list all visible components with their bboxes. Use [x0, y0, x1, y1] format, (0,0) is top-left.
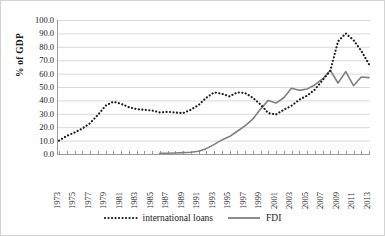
- y-axis-tick-label: 80.0: [20, 43, 54, 52]
- x-axis-tick-label: 1981: [115, 165, 124, 209]
- x-axis-tick-label: 1987: [161, 165, 170, 209]
- plot-svg: [58, 20, 370, 154]
- y-axis-tick-label: 40.0: [20, 96, 54, 105]
- y-axis-tick-labels: 0.010.020.030.040.050.060.070.080.090.01…: [18, 0, 54, 236]
- x-axis-tick-label: 2009: [332, 165, 341, 209]
- y-axis-tick-label: 20.0: [20, 123, 54, 132]
- x-axis-tick-label: 2011: [347, 165, 356, 209]
- y-axis-tick-label: 100.0: [20, 16, 54, 25]
- plot-area: [57, 20, 370, 155]
- gridlines: [58, 21, 370, 155]
- x-axis-tick-label: 1991: [192, 165, 201, 209]
- legend-label-fdi: FDI: [266, 213, 281, 223]
- y-axis-tick-label: 60.0: [20, 70, 54, 79]
- x-axis-tick-label: 2001: [270, 165, 279, 209]
- y-axis-tick-label: 10.0: [20, 137, 54, 146]
- legend-item-fdi: FDI: [227, 213, 281, 223]
- x-axis-tick-label: 2003: [285, 165, 294, 209]
- x-axis-tick-label: 2005: [301, 165, 310, 209]
- x-axis-tick-label: 1989: [177, 165, 186, 209]
- legend-label-international-loans: international loans: [143, 213, 213, 223]
- x-axis-tick-label: 2013: [363, 165, 372, 209]
- x-axis-tick-label: 2007: [316, 165, 325, 209]
- x-axis-tick-label: 1975: [68, 165, 77, 209]
- y-axis-tick-label: 90.0: [20, 29, 54, 38]
- dotted-line-swatch: [104, 214, 138, 222]
- y-axis-tick-label: 30.0: [20, 110, 54, 119]
- x-axis-tick-label: 1977: [84, 165, 93, 209]
- solid-line-swatch: [227, 214, 261, 222]
- x-axis-tick-labels: 1973197519771979198119831985198719891991…: [57, 157, 370, 209]
- x-axis-tick-label: 1993: [208, 165, 217, 209]
- y-axis-tick-label: 0.0: [20, 150, 54, 159]
- x-axis-tick-label: 1973: [53, 165, 62, 209]
- legend-item-international-loans: international loans: [104, 213, 213, 223]
- x-axis-tick-label: 1983: [130, 165, 139, 209]
- chart-legend: international loans FDI: [0, 208, 385, 228]
- x-axis-tick-label: 1999: [254, 165, 263, 209]
- y-axis-tick-label: 50.0: [20, 83, 54, 92]
- x-axis-tick-label: 1979: [99, 165, 108, 209]
- x-axis-tick-label: 1985: [146, 165, 155, 209]
- y-axis-tick-label: 70.0: [20, 56, 54, 65]
- x-axis-tick-label: 1997: [239, 165, 248, 209]
- chart-figure: % of GDP 0.010.020.030.040.050.060.070.0…: [0, 0, 385, 236]
- x-axis-tick-label: 1995: [223, 165, 232, 209]
- x-axis-tick-marks: [60, 151, 370, 154]
